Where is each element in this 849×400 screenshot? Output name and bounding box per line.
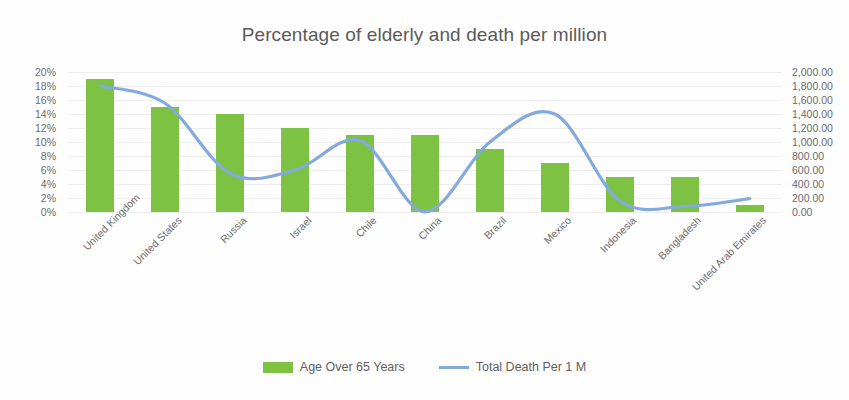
axis-left-tick: 8% — [0, 151, 62, 162]
axis-right-tick: 1,600.00 — [786, 95, 849, 106]
axis-left-tick: 4% — [0, 179, 62, 190]
category-label: United Kingdom — [80, 214, 119, 253]
chart-title: Percentage of elderly and death per mill… — [0, 24, 849, 46]
axis-right-tick: 2,000.00 — [786, 67, 849, 78]
plot-area — [68, 72, 782, 212]
bar-swatch-icon — [263, 362, 293, 373]
axis-left-tick: 20% — [0, 67, 62, 78]
primary-value-axis: 20%18%16%14%12%10%8%6%4%2%0% — [0, 72, 62, 212]
axis-left-tick: 6% — [0, 165, 62, 176]
chart-container: Percentage of elderly and death per mill… — [0, 0, 849, 400]
legend-label-bars: Age Over 65 Years — [300, 360, 405, 374]
axis-left-tick: 12% — [0, 123, 62, 134]
axis-right-tick: 1,000.00 — [786, 137, 849, 148]
line-swatch-icon — [439, 366, 469, 369]
axis-right-tick: 1,800.00 — [786, 81, 849, 92]
axis-left-tick: 16% — [0, 95, 62, 106]
axis-left-tick: 14% — [0, 109, 62, 120]
category-label: Russia — [118, 214, 248, 344]
axis-right-tick: 200.00 — [786, 193, 849, 204]
line-series-layer — [68, 72, 782, 212]
axis-right-tick: 0.00 — [786, 207, 849, 218]
line-path[interactable] — [100, 86, 749, 212]
legend-item-bars[interactable]: Age Over 65 Years — [263, 360, 405, 374]
chart-legend: Age Over 65 Years Total Death Per 1 M — [0, 360, 849, 374]
axis-left-tick: 2% — [0, 193, 62, 204]
axis-right-tick: 800.00 — [786, 151, 849, 162]
axis-right-tick: 400.00 — [786, 179, 849, 190]
axis-left-tick: 0% — [0, 207, 62, 218]
legend-label-line: Total Death Per 1 M — [476, 360, 586, 374]
axis-left-tick: 10% — [0, 137, 62, 148]
axis-right-tick: 1,400.00 — [786, 109, 849, 120]
category-axis: United KingdomUnited StatesRussiaIsraelC… — [68, 214, 782, 334]
secondary-value-axis: 2,000.001,800.001,600.001,400.001,200.00… — [786, 72, 849, 212]
axis-left-tick: 18% — [0, 81, 62, 92]
axis-right-tick: 600.00 — [786, 165, 849, 176]
legend-item-line[interactable]: Total Death Per 1 M — [439, 360, 586, 374]
axis-right-tick: 1,200.00 — [786, 123, 849, 134]
